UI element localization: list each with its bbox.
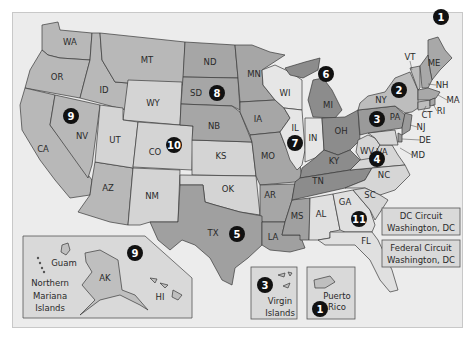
label-LA: LA xyxy=(268,232,279,242)
svg-text:11: 11 xyxy=(352,214,366,225)
svg-text:3: 3 xyxy=(374,114,381,125)
label-RI: RI xyxy=(437,106,445,116)
label-ID: ID xyxy=(99,85,109,95)
circuit-badge-3-inset[interactable]: 3 xyxy=(257,277,273,293)
circuit-badge-8[interactable]: 8 xyxy=(209,85,225,101)
state-CT[interactable] xyxy=(418,100,430,110)
state-NY[interactable] xyxy=(358,72,418,113)
label-AK: AK xyxy=(99,273,111,283)
dc-circuit-box[interactable]: DC Circuit Washington, DC xyxy=(382,208,460,235)
dc-circuit-title: DC Circuit xyxy=(400,211,443,221)
label-IN: IN xyxy=(309,133,318,143)
circuit-badge-2[interactable]: 2 xyxy=(391,82,407,98)
pr-label-line2: Rico xyxy=(328,302,346,312)
label-PA: PA xyxy=(390,112,401,122)
nmi-label-line3: Islands xyxy=(35,303,65,313)
label-GA: GA xyxy=(339,197,352,207)
label-TN: TN xyxy=(311,176,324,186)
label-ND: ND xyxy=(204,57,217,67)
federal-circuit-title: Federal Circuit xyxy=(390,243,452,253)
dc-circuit-city: Washington, DC xyxy=(387,223,455,233)
label-WI: WI xyxy=(280,88,291,98)
virgin-islands-inset: Virgin Islands xyxy=(251,267,297,319)
svg-text:5: 5 xyxy=(234,229,241,240)
svg-text:9: 9 xyxy=(132,248,139,259)
label-CO: CO xyxy=(149,147,162,157)
label-MD: MD xyxy=(411,150,425,160)
circuit-badge-7[interactable]: 7 xyxy=(287,135,303,151)
label-HI: HI xyxy=(156,292,165,302)
label-MO: MO xyxy=(261,151,275,161)
label-CA: CA xyxy=(37,144,49,154)
label-MA: MA xyxy=(446,95,459,105)
label-KY: KY xyxy=(329,156,340,166)
label-WY: WY xyxy=(146,98,160,108)
circuit-badge-4[interactable]: 4 xyxy=(369,151,385,167)
circuit-badge-3[interactable]: 3 xyxy=(369,111,385,127)
label-WA: WA xyxy=(63,37,77,47)
label-AR: AR xyxy=(264,190,276,200)
label-AZ: AZ xyxy=(102,183,114,193)
label-MN: MN xyxy=(247,69,261,79)
label-SC: SC xyxy=(364,190,375,200)
label-NB: NB xyxy=(208,121,220,131)
label-OR: OR xyxy=(51,72,64,82)
federal-circuit-box[interactable]: Federal Circuit Washington, DC xyxy=(382,240,460,267)
label-MS: MS xyxy=(291,211,304,221)
label-CT: CT xyxy=(421,110,433,120)
svg-text:4: 4 xyxy=(374,154,381,165)
label-DE: DE xyxy=(419,135,431,145)
label-NC: NC xyxy=(378,170,390,180)
label-IL: IL xyxy=(291,123,299,133)
svg-text:6: 6 xyxy=(323,69,330,80)
circuit-badge-11[interactable]: 11 xyxy=(351,211,367,227)
federal-circuit-city: Washington, DC xyxy=(387,255,455,265)
label-SD: SD xyxy=(190,88,202,98)
label-VT: VT xyxy=(404,52,416,62)
label-FL: FL xyxy=(361,236,371,246)
label-UT: UT xyxy=(109,135,121,145)
label-MI: MI xyxy=(323,100,333,110)
circuit-badge-9[interactable]: 9 xyxy=(63,108,79,124)
label-IA: IA xyxy=(254,114,263,124)
circuit-badge-1-inset[interactable]: 1 xyxy=(312,301,328,317)
label-NM: NM xyxy=(145,191,159,201)
svg-text:2: 2 xyxy=(396,85,403,96)
label-AL: AL xyxy=(316,209,327,219)
svg-text:9: 9 xyxy=(68,111,75,122)
circuit-badge-1[interactable]: 1 xyxy=(433,9,449,25)
svg-text:10: 10 xyxy=(167,140,181,151)
state-DE[interactable] xyxy=(398,133,402,142)
svg-text:1: 1 xyxy=(317,304,324,315)
pacific-inset: Guam Northern Mariana Islands AK HI xyxy=(23,236,192,318)
circuit-badge-6[interactable]: 6 xyxy=(318,66,334,82)
label-NH: NH xyxy=(436,80,449,90)
state-MA[interactable] xyxy=(418,88,440,100)
label-NJ: NJ xyxy=(417,122,426,132)
svg-text:7: 7 xyxy=(292,138,299,149)
vi-label-line2: Islands xyxy=(265,308,295,318)
circuit-badge-10[interactable]: 10 xyxy=(166,137,182,153)
vi-label-line1: Virgin xyxy=(268,296,292,306)
nmi-label-line1: Northern xyxy=(31,278,69,288)
circuit-badge-5[interactable]: 5 xyxy=(229,226,245,242)
svg-text:3: 3 xyxy=(262,280,269,291)
state-CO[interactable] xyxy=(133,122,193,170)
label-ME: ME xyxy=(428,58,441,68)
circuit-badge-9-inset[interactable]: 9 xyxy=(127,245,143,261)
label-OK: OK xyxy=(222,184,235,194)
svg-text:1: 1 xyxy=(438,12,445,23)
svg-text:8: 8 xyxy=(214,88,221,99)
pr-label-line1: Puerto xyxy=(323,291,351,301)
label-KS: KS xyxy=(216,151,227,161)
us-circuit-map: Guam Northern Mariana Islands AK HI Virg… xyxy=(0,0,475,341)
label-NY: NY xyxy=(375,95,387,105)
label-NV: NV xyxy=(76,131,88,141)
label-MT: MT xyxy=(141,55,154,65)
label-OH: OH xyxy=(334,126,347,136)
nmi-label-line2: Mariana xyxy=(33,291,67,301)
guam-label: Guam xyxy=(51,258,76,268)
label-TX: TX xyxy=(206,228,218,238)
